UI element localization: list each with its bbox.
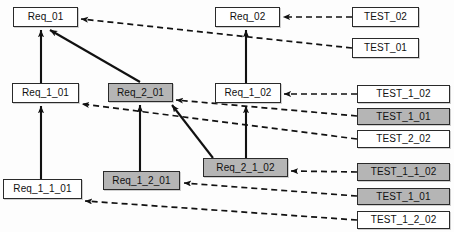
node-req_02[interactable]: Req_02	[215, 7, 280, 27]
node-label: TEST_01	[364, 43, 407, 53]
node-test_2_02[interactable]: TEST_2_02	[357, 130, 450, 148]
node-req_01[interactable]: Req_01	[13, 7, 78, 27]
node-req_1_01[interactable]: Req_1_01	[12, 83, 79, 103]
traceability-diagram-canvas: Req_01Req_02TEST_02TEST_01Req_1_01Req_2_…	[0, 0, 454, 232]
node-label: TEST_1_01	[376, 111, 430, 121]
node-label: Req_1_02	[225, 88, 272, 98]
edge-e-test_1_01b-req_1_2_01	[184, 183, 357, 196]
solid-edge-group	[41, 30, 246, 179]
node-label: TEST_1_2_02	[371, 215, 437, 225]
node-label: TEST_1_02	[376, 89, 430, 99]
node-label: Req_2_01	[117, 87, 164, 97]
node-test_1_01_a[interactable]: TEST_1_01	[357, 108, 450, 125]
node-test_1_2_02[interactable]: TEST_1_2_02	[357, 211, 450, 229]
node-req_1_1_01[interactable]: Req_1_1_01	[3, 179, 82, 199]
node-test_1_02[interactable]: TEST_1_02	[357, 85, 450, 103]
node-req_1_2_01[interactable]: Req_1_2_01	[103, 171, 180, 190]
node-label: TEST_1_01	[376, 191, 430, 201]
node-label: Req_02	[230, 12, 266, 22]
node-test_01[interactable]: TEST_01	[352, 38, 419, 58]
node-label: TEST_2_02	[376, 134, 430, 144]
node-label: Req_1_01	[22, 88, 69, 98]
node-label: TEST_02	[364, 12, 407, 22]
node-test_1_1_02[interactable]: TEST_1_1_02	[357, 163, 450, 181]
node-req_1_02[interactable]: Req_1_02	[215, 83, 281, 103]
node-req_2_1_02[interactable]: Req_2_1_02	[203, 158, 288, 177]
node-label: Req_1_2_01	[112, 175, 170, 185]
node-label: TEST_1_1_02	[371, 167, 437, 177]
edge-e-req_2_1_02-req_2_01	[172, 105, 213, 158]
edge-e-req_2_01-req_01	[50, 30, 140, 82]
node-label: Req_1_1_01	[13, 184, 71, 194]
edge-e-test_1_2_02-req_1_1_01	[85, 201, 357, 220]
node-label: Req_01	[28, 12, 64, 22]
node-test_1_01_b[interactable]: TEST_1_01	[357, 188, 450, 205]
node-req_2_01[interactable]: Req_2_01	[108, 83, 173, 102]
node-test_02[interactable]: TEST_02	[352, 7, 419, 27]
edge-e-test_2_02-req_2_01	[82, 104, 357, 139]
edge-e-test_1_1_02-req_2_1_02	[291, 171, 357, 172]
node-label: Req_2_1_02	[216, 162, 274, 172]
